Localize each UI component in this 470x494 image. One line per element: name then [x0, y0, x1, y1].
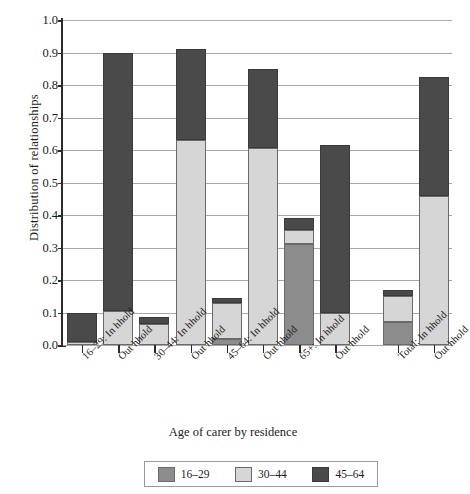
y-tick-label: 0.8 — [24, 79, 58, 92]
bar-segment[interactable] — [176, 49, 206, 140]
bar[interactable] — [419, 77, 449, 345]
y-tick-label: 0.2 — [24, 274, 58, 287]
legend-swatch-icon — [158, 467, 175, 482]
y-tick-label: 1.0 — [24, 14, 58, 27]
bar[interactable] — [103, 53, 133, 346]
bar[interactable] — [383, 290, 413, 345]
y-tick-label: 0.6 — [24, 144, 58, 157]
y-tick-label: 0.4 — [24, 209, 58, 222]
bar-segment[interactable] — [320, 145, 350, 312]
legend-swatch-icon — [235, 467, 252, 482]
y-tick-label: 0.7 — [24, 112, 58, 125]
y-tick-label: 0.1 — [24, 307, 58, 320]
legend-label: 45–64 — [335, 468, 364, 480]
y-tick-label: 0.9 — [24, 47, 58, 60]
x-axis-title: Age of carer by residence — [0, 425, 466, 440]
legend-swatch-icon — [312, 467, 329, 482]
y-tick-label: 0.3 — [24, 242, 58, 255]
legend-item[interactable]: 45–64 — [312, 467, 364, 482]
legend-label: 30–44 — [258, 468, 287, 480]
bar-segment[interactable] — [284, 218, 314, 229]
bar-segment[interactable] — [248, 69, 278, 149]
bar[interactable] — [248, 69, 278, 345]
bar-segment[interactable] — [419, 77, 449, 196]
legend-label: 16–29 — [181, 468, 210, 480]
y-axis-ticks: 0.00.10.20.30.40.50.60.70.80.91.0 — [18, 20, 58, 345]
bar[interactable] — [176, 49, 206, 345]
bar-segment[interactable] — [383, 296, 413, 322]
bar-segment[interactable] — [103, 53, 133, 311]
legend-item[interactable]: 16–29 — [158, 467, 210, 482]
bars-container — [62, 20, 452, 345]
y-tick-label: 0.0 — [24, 339, 58, 352]
chart-legend: 16–2930–4445–64 — [144, 461, 378, 487]
y-tick-label: 0.5 — [24, 177, 58, 190]
legend-item[interactable]: 30–44 — [235, 467, 287, 482]
bar-segment[interactable] — [284, 230, 314, 245]
x-axis-labels: 16–29: In hholdOut hhold30–44: In hholdO… — [0, 352, 466, 422]
bar-segment[interactable] — [67, 313, 97, 342]
